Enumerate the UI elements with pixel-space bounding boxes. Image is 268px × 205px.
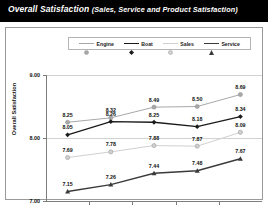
x-tick-mark bbox=[132, 201, 133, 205]
y-tick-mark bbox=[43, 75, 47, 76]
data-label-engine-2005: 8.50 bbox=[182, 96, 212, 102]
legend-swatch-service-icon bbox=[204, 40, 219, 47]
data-label-sales-2002: 7.69 bbox=[53, 147, 83, 153]
legend-swatch-boat-icon bbox=[124, 40, 139, 47]
legend-label: Boat bbox=[141, 41, 153, 47]
legend-item-engine[interactable]: Engine bbox=[79, 40, 114, 47]
legend-swatch-sales-icon bbox=[163, 40, 178, 47]
y-tick-label: 9.00 bbox=[14, 72, 40, 78]
banner-text: Overall Satisfaction (Sales, Service and… bbox=[8, 4, 238, 14]
x-tick-mark bbox=[89, 201, 90, 205]
chart-page: Overall Satisfaction (Sales, Service and… bbox=[0, 0, 268, 205]
data-label-service-2002: 7.15 bbox=[53, 181, 83, 187]
legend-item-boat[interactable]: Boat bbox=[124, 40, 153, 47]
x-tick-mark bbox=[219, 201, 220, 205]
gridline bbox=[46, 75, 262, 76]
legend-label: Sales bbox=[180, 41, 194, 47]
legend-label: Engine bbox=[97, 41, 114, 47]
page-title: Overall Satisfaction bbox=[8, 4, 89, 14]
data-label-engine-2002: 8.25 bbox=[53, 112, 83, 118]
legend-item-service[interactable]: Service bbox=[204, 40, 240, 47]
data-label-sales-2004: 7.88 bbox=[139, 135, 169, 141]
data-label-boat-2002: 8.05 bbox=[53, 124, 83, 130]
data-label-sales-2006: 8.09 bbox=[225, 122, 255, 128]
data-label-engine-2004: 8.49 bbox=[139, 97, 169, 103]
chart-frame: EngineBoatSalesService Overall Satisfact… bbox=[5, 27, 263, 200]
data-label-engine-2006: 8.69 bbox=[225, 84, 255, 90]
chart-legend: EngineBoatSalesService bbox=[68, 37, 251, 50]
data-label-boat-2003: 8.26 bbox=[96, 111, 126, 117]
title-banner: Overall Satisfaction (Sales, Service and… bbox=[0, 0, 268, 22]
y-tick-mark bbox=[43, 138, 47, 139]
data-label-boat-2005: 8.18 bbox=[182, 116, 212, 122]
data-label-boat-2006: 8.34 bbox=[225, 106, 255, 112]
legend-item-sales[interactable]: Sales bbox=[163, 40, 194, 47]
y-tick-label: 8.00 bbox=[14, 135, 40, 141]
data-label-service-2004: 7.44 bbox=[139, 163, 169, 169]
y-tick-mark bbox=[43, 201, 47, 202]
data-label-boat-2004: 8.25 bbox=[139, 112, 169, 118]
page-subtitle: (Sales, Service and Product Satisfaction… bbox=[92, 5, 238, 14]
legend-label: Service bbox=[221, 41, 239, 47]
data-label-sales-2005: 7.87 bbox=[182, 136, 212, 142]
legend-swatch-engine-icon bbox=[79, 40, 94, 47]
data-label-service-2005: 7.48 bbox=[182, 160, 212, 166]
x-tick-mark bbox=[176, 201, 177, 205]
data-label-service-2003: 7.26 bbox=[96, 174, 126, 180]
y-tick-label: 7.00 bbox=[14, 198, 40, 204]
x-axis-line bbox=[46, 201, 262, 202]
data-label-sales-2003: 7.78 bbox=[96, 141, 126, 147]
data-label-service-2006: 7.67 bbox=[225, 148, 255, 154]
